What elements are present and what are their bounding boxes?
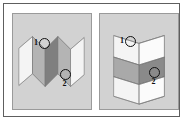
circle-marker-icon <box>39 38 50 49</box>
right-panel: 1 2 <box>99 13 179 110</box>
left-panel: 1 2 <box>12 13 92 110</box>
left-panel-marker-1-label: 1 <box>34 39 38 47</box>
left-panel-marker-2-label: 2 <box>63 80 67 88</box>
right-panel-marker-1-label: 1 <box>120 37 124 45</box>
figure-outer-frame: 1 2 <box>3 3 180 117</box>
figure-root: 1 2 <box>0 0 185 122</box>
right-folded-surface-illustration <box>100 14 178 109</box>
circle-marker-icon <box>149 67 160 78</box>
circle-marker-icon <box>60 69 71 80</box>
left-panel-inner: 1 2 <box>13 14 91 109</box>
left-folded-surface-illustration <box>13 14 91 109</box>
right-panel-marker-2-label: 2 <box>152 78 156 86</box>
circle-marker-icon <box>125 36 136 47</box>
right-panel-inner: 1 2 <box>100 14 178 109</box>
